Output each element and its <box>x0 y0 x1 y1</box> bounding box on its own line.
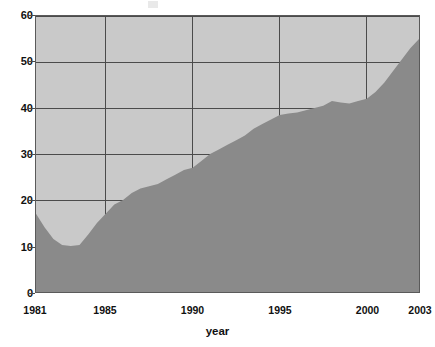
x-tick-label: 2000 <box>356 304 379 316</box>
x-tick-label: 2003 <box>408 304 431 316</box>
top-artifact <box>148 1 158 8</box>
x-tick-label: 1990 <box>181 304 204 316</box>
x-tick-label: 1985 <box>93 304 116 316</box>
x-tick-label: 1995 <box>268 304 291 316</box>
data-area-path <box>36 39 419 292</box>
y-axis: 0102030405060 <box>0 0 33 347</box>
y-tick-mark <box>28 247 35 248</box>
y-tick-mark <box>28 15 35 16</box>
y-tick-mark <box>28 108 35 109</box>
y-tick-mark <box>28 293 35 294</box>
chart-container: 0102030405060 198119851990199520002003 y… <box>0 0 435 347</box>
y-tick-mark <box>28 200 35 201</box>
area-chart-svg <box>36 16 419 292</box>
plot-area <box>35 15 420 293</box>
x-axis-title: year <box>0 325 435 337</box>
y-tick-mark <box>28 154 35 155</box>
y-tick-mark <box>28 61 35 62</box>
x-tick-label: 1981 <box>23 304 46 316</box>
